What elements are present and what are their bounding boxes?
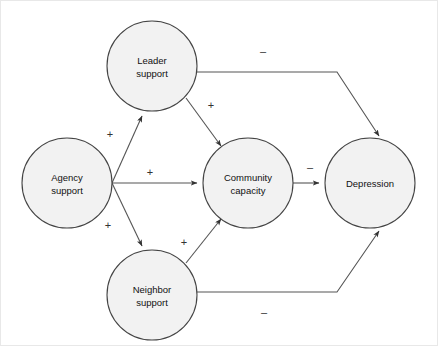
node-leader-support[interactable]: Leader support [107,21,197,111]
node-leader-support-circle[interactable] [107,21,197,111]
edge-sign-neighbor-to-community: + [181,236,187,248]
node-depression-label-line1: Depression [346,178,394,189]
edge-leader-to-community [186,98,221,146]
edge-sign-leader-to-depression: – [260,45,267,57]
edge-leader-to-depression [196,72,379,136]
node-agency-support-label-line2: support [51,185,83,196]
edge-sign-agency-to-neighbor: + [105,219,111,231]
node-community-capacity-label-line1: Community [224,172,272,183]
node-community-capacity[interactable]: Community capacity [203,138,293,228]
node-leader-support-label-line2: support [136,68,168,79]
node-community-capacity-circle[interactable] [203,138,293,228]
node-leader-support-label-line1: Leader [137,55,167,66]
node-agency-support[interactable]: Agency support [22,138,112,228]
node-neighbor-support-label-line1: Neighbor [133,284,172,295]
edge-sign-neighbor-to-depression: – [261,306,268,318]
edge-sign-leader-to-community: + [208,99,214,111]
node-agency-support-circle[interactable] [22,138,112,228]
node-neighbor-support-circle[interactable] [107,250,197,340]
edge-sign-agency-to-leader: + [107,128,113,140]
node-agency-support-label-line1: Agency [51,172,83,183]
edge-agency-to-leader [112,116,142,183]
edge-sign-community-to-depression: – [307,161,314,173]
node-depression[interactable]: Depression [325,138,415,228]
node-neighbor-support[interactable]: Neighbor support [107,250,197,340]
edge-agency-to-neighbor [112,183,142,246]
edge-neighbor-to-community [186,219,221,263]
path-model-diagram: Leader support Agency support Community … [0,0,438,356]
diagram-canvas: Leader support Agency support Community … [0,0,438,356]
node-neighbor-support-label-line2: support [136,297,168,308]
edge-sign-agency-to-community: + [147,166,153,178]
edge-neighbor-to-depression [196,231,379,292]
node-community-capacity-label-line2: capacity [231,185,266,196]
